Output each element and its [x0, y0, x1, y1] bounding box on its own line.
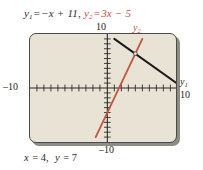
equation-y2-expression: 3x − 5 — [101, 7, 131, 19]
equation-y2-equals: = — [93, 7, 101, 19]
equation-y1-equals: = — [33, 7, 41, 19]
axis-label-y-bottom: –10 — [99, 144, 114, 155]
axes-group — [30, 34, 176, 142]
axis-label-y-top: 10 — [96, 21, 106, 32]
axis-label-x-left: –10 — [3, 81, 18, 92]
plot-svg — [30, 34, 176, 142]
equation-y2-subscript: 2 — [89, 13, 93, 21]
solution-y-value: = 7 — [62, 152, 78, 163]
equation-separator: , — [78, 7, 81, 19]
figure-root: y1=−x + 11, y2=3x − 5 — [0, 0, 203, 170]
curve-label-y1-subscript: 1 — [184, 81, 187, 88]
solution-y-variable: y — [55, 152, 60, 163]
solution-x-variable: x — [24, 152, 29, 163]
line-y1 — [114, 39, 176, 83]
curve-label-y1: y1 — [180, 76, 188, 87]
equation-y1: y1=−x + 11 — [24, 7, 78, 19]
coordinate-plane — [29, 33, 177, 143]
solution-x-value: = 4, — [31, 152, 49, 163]
intersection-point — [133, 52, 137, 56]
equation-y1-subscript: 1 — [29, 13, 33, 21]
solution-caption: x = 4, y = 7 — [24, 152, 78, 163]
axis-label-x-right: 10 — [180, 89, 190, 100]
equation-y2: y2=3x − 5 — [84, 7, 131, 19]
curve-label-y2-subscript: 2 — [137, 27, 140, 34]
curve-label-y2: y2 — [133, 22, 141, 33]
equation-y1-expression: −x + 11 — [41, 7, 78, 19]
equation-caption: y1=−x + 11, y2=3x − 5 — [24, 7, 131, 19]
